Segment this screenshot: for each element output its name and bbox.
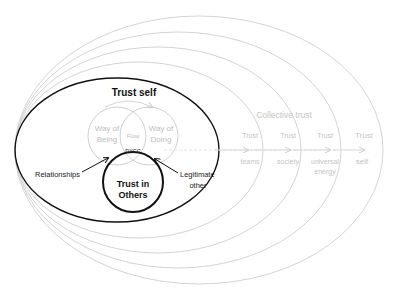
way-of-doing-line1: Way of: [149, 124, 174, 133]
ring-society-bottom: society: [277, 158, 299, 166]
relationships-arrow: [82, 158, 108, 172]
way-of-being-line2: Being: [97, 135, 117, 144]
ring-universal-top: Trust: [317, 132, 333, 139]
collective-trust-label: Collective trust: [256, 110, 312, 120]
trust-self-title: Trust self: [112, 87, 157, 98]
ring-universal-bottom-1: universal: [311, 158, 339, 165]
ring-self-top: Trust: [355, 131, 374, 140]
relationships-label: Relationships: [35, 170, 80, 179]
ring-teams-top: Trust: [242, 132, 258, 139]
trust-diagram: Trust self Way of Being Way of Doing Flo…: [0, 0, 397, 289]
trust-in-others-line2: Others: [118, 190, 147, 200]
way-of-doing-line2: Doing: [151, 135, 172, 144]
flow-arrow: [105, 101, 152, 107]
trust-self-ellipse: [15, 78, 219, 222]
dycc-label: DYCC: [125, 148, 141, 154]
trust-in-others-line1: Trust in: [117, 179, 150, 189]
legitimate-other-line1: Legitimate: [180, 170, 215, 179]
ring-teams-bottom: teams: [240, 158, 260, 165]
way-of-being-line1: Way of: [95, 124, 120, 133]
ring-universal-bottom-2: energy: [314, 168, 336, 176]
legitimate-other-line2: other: [189, 181, 207, 190]
flow-label: Flow: [127, 133, 140, 139]
ring-society-top: Trust: [280, 132, 296, 139]
ring-self-bottom: self: [356, 157, 369, 166]
